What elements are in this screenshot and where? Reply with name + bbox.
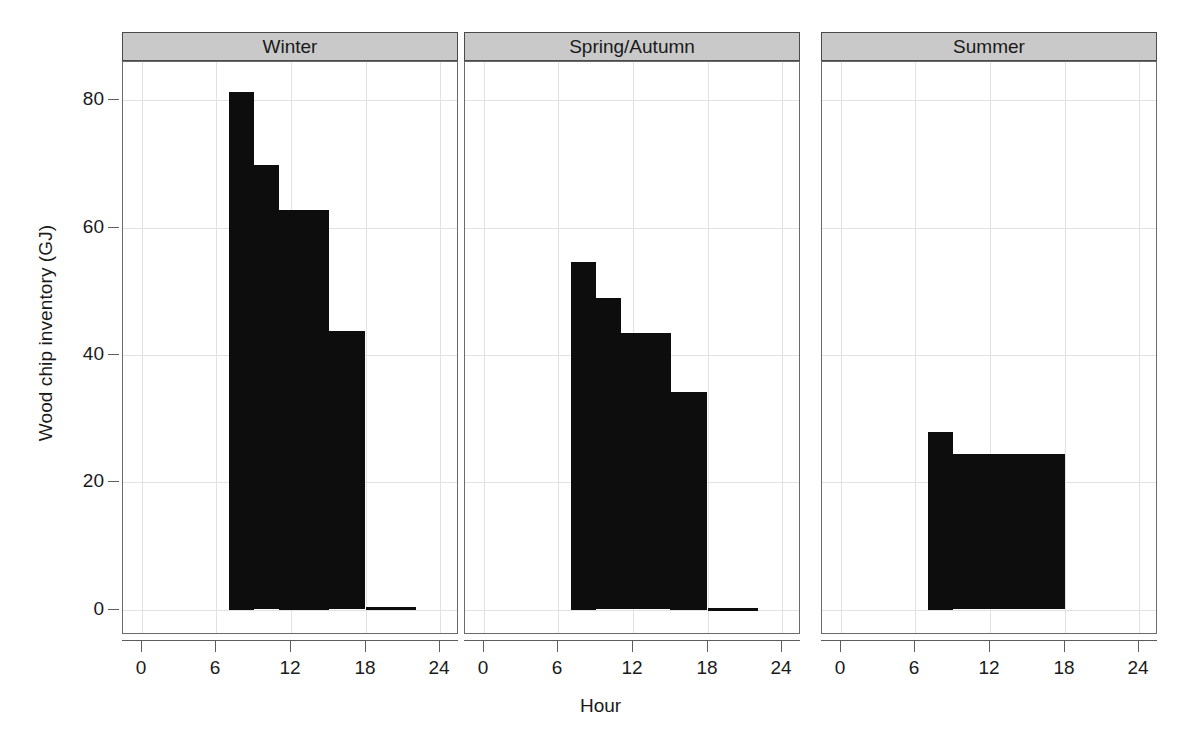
gridline-horizontal [123, 100, 457, 101]
x-axis-tick-label: 12 [279, 657, 300, 679]
x-axis-tick-label: 18 [354, 657, 375, 679]
gridline-vertical [1139, 62, 1140, 633]
y-axis-tick-label: 20 [83, 470, 104, 492]
gridline-vertical [142, 62, 143, 633]
gridline-horizontal [822, 610, 1156, 611]
x-axis-tick-label: 18 [1053, 657, 1074, 679]
x-axis-tick-label: 6 [909, 657, 920, 679]
x-axis-tick-mark [914, 641, 915, 652]
plot-area [122, 61, 458, 634]
x-axis-tick-label: 24 [770, 657, 791, 679]
panel-strip-label: Winter [122, 32, 458, 61]
y-axis-tick-mark [108, 227, 119, 228]
y-axis-tick-label: 60 [83, 216, 104, 238]
gridline-horizontal [123, 610, 457, 611]
gridline-vertical [841, 62, 842, 633]
x-axis-tick-label: 6 [552, 657, 563, 679]
y-axis-tick-mark [108, 99, 119, 100]
x-axis-tick-mark [632, 641, 633, 652]
y-axis-tick-mark [108, 609, 119, 610]
chart-panel-winter: Winter [122, 32, 458, 634]
x-axis-tick-label: 0 [478, 657, 489, 679]
x-axis-tick-mark [1138, 641, 1139, 652]
y-axis-tick-label: 80 [83, 88, 104, 110]
x-axis-tick-label: 6 [210, 657, 221, 679]
x-axis-tick-mark [781, 641, 782, 652]
x-axis-tick-mark [439, 641, 440, 652]
x-axis-tick-mark [365, 641, 366, 652]
gridline-vertical [216, 62, 217, 633]
x-axis-tick-mark [1064, 641, 1065, 652]
x-axis-tick-label: 0 [835, 657, 846, 679]
x-axis-tick-label: 12 [621, 657, 642, 679]
gridline-vertical [440, 62, 441, 633]
chart-bar [328, 331, 365, 609]
x-axis-tick-label: 24 [428, 657, 449, 679]
plot-area [464, 61, 800, 634]
x-axis-tick-label: 0 [136, 657, 147, 679]
chart-bar [571, 262, 596, 610]
chart-bar [366, 607, 416, 610]
y-axis-tick-label: 40 [83, 343, 104, 365]
x-axis-tick-mark [989, 641, 990, 652]
gridline-vertical [915, 62, 916, 633]
x-axis-tick-mark [215, 641, 216, 652]
y-axis-tick-mark [108, 481, 119, 482]
gridline-horizontal [465, 228, 799, 229]
gridline-vertical [558, 62, 559, 633]
chart-bar [621, 333, 671, 609]
gridline-vertical [1065, 62, 1066, 633]
x-axis-tick-label: 24 [1127, 657, 1148, 679]
x-axis-tick-mark [483, 641, 484, 652]
gridline-horizontal [822, 228, 1156, 229]
x-axis-tick-mark [557, 641, 558, 652]
gridline-vertical [484, 62, 485, 633]
x-axis-tick-label: 18 [696, 657, 717, 679]
chart-bar [229, 92, 254, 610]
panel-strip-label: Summer [821, 32, 1157, 61]
chart-panel-summer: Summer [821, 32, 1157, 634]
gridline-vertical [782, 62, 783, 633]
x-axis-tick-mark [707, 641, 708, 652]
y-axis-tick-mark [108, 354, 119, 355]
chart-figure: Wood chip inventory (GJ) 020406080 Winte… [0, 0, 1201, 749]
y-axis-tick-label: 0 [93, 598, 104, 620]
y-axis-tick-labels: 020406080 [42, 0, 104, 749]
gridline-vertical [708, 62, 709, 633]
chart-panel-spring-autumn: Spring/Autumn [464, 32, 800, 634]
x-axis-tick-label: 12 [978, 657, 999, 679]
chart-bar [708, 608, 758, 611]
chart-bar [254, 165, 279, 609]
gridline-horizontal [465, 100, 799, 101]
gridline-vertical [366, 62, 367, 633]
chart-bar [953, 454, 1065, 609]
x-axis-tick-mark [840, 641, 841, 652]
chart-bar [928, 432, 953, 610]
x-axis-tick-mark [290, 641, 291, 652]
gridline-horizontal [822, 100, 1156, 101]
panel-strip-label: Spring/Autumn [464, 32, 800, 61]
chart-bar [670, 392, 707, 610]
chart-bar [596, 298, 621, 609]
x-axis-tick-mark [141, 641, 142, 652]
x-axis-title: Hour [0, 695, 1201, 717]
gridline-horizontal [822, 355, 1156, 356]
plot-area [821, 61, 1157, 634]
chart-bar [279, 210, 329, 610]
